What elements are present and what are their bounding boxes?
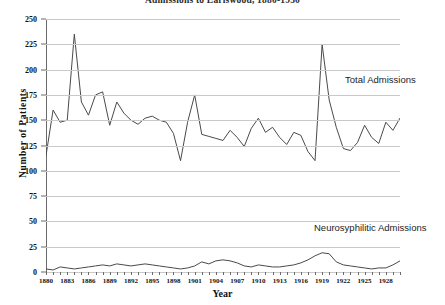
gridline-100	[46, 171, 400, 172]
y-axis-ticks: 0255075100125150175200225250	[0, 0, 46, 305]
x-tick-mark-1923	[350, 272, 351, 275]
y-tick-label-125: 125	[25, 141, 37, 150]
x-tick-mark-1926	[372, 272, 373, 275]
gridline-175	[46, 95, 400, 96]
x-tick-mark-1916	[301, 272, 302, 275]
x-tick-label-1916: 1916	[294, 277, 308, 285]
y-tick-label-50: 50	[29, 217, 37, 226]
y-tick-label-100: 100	[25, 166, 37, 175]
x-tick-label-1907: 1907	[230, 277, 244, 285]
x-tick-label-1883: 1883	[60, 277, 74, 285]
x-tick-label-1898: 1898	[166, 277, 180, 285]
x-tick-mark-1907	[237, 272, 238, 275]
x-axis-title: Year	[0, 288, 445, 299]
y-tick-label-200: 200	[25, 65, 37, 74]
x-tick-mark-1919	[322, 272, 323, 275]
gridlines	[46, 19, 400, 272]
x-tick-mark-1906	[230, 272, 231, 275]
x-tick-mark-1880	[46, 272, 47, 275]
x-tick-mark-1881	[53, 272, 54, 275]
y-tick-label-225: 225	[25, 40, 37, 49]
gridline-250	[46, 19, 400, 20]
chart-title: Admissions to Earlswood, 1880-1930	[0, 0, 445, 5]
x-tick-mark-1922	[343, 272, 344, 275]
x-tick-mark-1915	[294, 272, 295, 275]
x-tick-label-1919: 1919	[315, 277, 329, 285]
x-tick-mark-1912	[273, 272, 274, 275]
x-tick-label-1901: 1901	[188, 277, 202, 285]
x-tick-mark-1896	[159, 272, 160, 275]
y-tick-label-25: 25	[29, 242, 37, 251]
x-tick-mark-1921	[336, 272, 337, 275]
x-tick-label-1904: 1904	[209, 277, 223, 285]
x-tick-mark-1929	[393, 272, 394, 275]
x-tick-label-1913: 1913	[273, 277, 287, 285]
x-tick-label-1922: 1922	[336, 277, 350, 285]
gridline-25	[46, 247, 400, 248]
gridline-125	[46, 146, 400, 147]
x-tick-mark-1927	[379, 272, 380, 275]
x-tick-mark-1889	[110, 272, 111, 275]
x-tick-mark-1905	[223, 272, 224, 275]
x-tick-mark-1888	[103, 272, 104, 275]
x-tick-mark-1886	[88, 272, 89, 275]
x-tick-mark-1895	[152, 272, 153, 275]
x-tick-mark-1925	[365, 272, 366, 275]
x-tick-mark-1920	[329, 272, 330, 275]
x-tick-mark-1910	[258, 272, 259, 275]
x-tick-mark-1908	[244, 272, 245, 275]
x-tick-mark-1887	[96, 272, 97, 275]
x-tick-mark-1885	[81, 272, 82, 275]
y-tick-label-150: 150	[25, 116, 37, 125]
gridline-200	[46, 70, 400, 71]
x-tick-mark-1893	[138, 272, 139, 275]
x-tick-mark-1924	[358, 272, 359, 275]
x-tick-mark-1892	[131, 272, 132, 275]
x-tick-mark-1918	[315, 272, 316, 275]
x-tick-mark-1913	[280, 272, 281, 275]
x-tick-mark-1900	[188, 272, 189, 275]
y-tick-label-250: 250	[25, 15, 37, 24]
x-tick-label-1895: 1895	[145, 277, 159, 285]
x-tick-mark-1884	[74, 272, 75, 275]
x-tick-mark-1903	[209, 272, 210, 275]
x-tick-label-1928: 1928	[379, 277, 393, 285]
x-tick-mark-1890	[117, 272, 118, 275]
x-tick-mark-1902	[202, 272, 203, 275]
x-tick-mark-1914	[287, 272, 288, 275]
x-tick-label-1889: 1889	[103, 277, 117, 285]
x-tick-label-1880: 1880	[39, 277, 53, 285]
x-tick-label-1886: 1886	[81, 277, 95, 285]
x-tick-mark-1928	[386, 272, 387, 275]
x-tick-mark-1917	[308, 272, 309, 275]
gridline-75	[46, 196, 400, 197]
x-tick-mark-1901	[195, 272, 196, 275]
x-tick-mark-1894	[145, 272, 146, 275]
x-tick-mark-1930	[400, 272, 401, 275]
x-tick-mark-1883	[67, 272, 68, 275]
x-tick-mark-1904	[216, 272, 217, 275]
x-tick-label-1925: 1925	[358, 277, 372, 285]
annotation-total-admissions: Total Admissions	[345, 74, 416, 85]
x-tick-mark-1899	[181, 272, 182, 275]
x-tick-mark-1897	[166, 272, 167, 275]
gridline-225	[46, 44, 400, 45]
chart-container: Admissions to Earlswood, 1880-1930 Numbe…	[0, 0, 445, 305]
y-tick-label-175: 175	[25, 90, 37, 99]
x-tick-label-1910: 1910	[251, 277, 265, 285]
annotation-neurosyphilitic-admissions: Neurosyphilitic Admissions	[314, 222, 426, 233]
x-tick-mark-1909	[251, 272, 252, 275]
x-tick-label-1892: 1892	[124, 277, 138, 285]
x-tick-mark-1882	[60, 272, 61, 275]
plot-area	[46, 19, 400, 272]
gridline-150	[46, 120, 400, 121]
x-tick-mark-1911	[265, 272, 266, 275]
y-tick-label-75: 75	[29, 192, 37, 201]
x-tick-mark-1891	[124, 272, 125, 275]
x-tick-mark-1898	[173, 272, 174, 275]
